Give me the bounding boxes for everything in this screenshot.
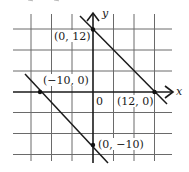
point-0-neg10 <box>91 143 95 147</box>
point-12-0 <box>152 90 156 94</box>
point-label-neg10-0: (−10, 0) <box>43 74 89 87</box>
coordinate-plane-figure: (0, 12) (12, 0) (−10, 0) (0, −10) 0 x y <box>0 0 189 172</box>
point-label-12-0: (12, 0) <box>117 95 154 108</box>
point-label-0-neg10: (0, −10) <box>98 138 144 151</box>
lower-line <box>25 74 108 163</box>
point-neg10-0 <box>38 90 42 94</box>
point-label-0-12: (0, 12) <box>54 30 91 43</box>
x-axis-label: x <box>176 85 183 98</box>
plotted-lines <box>25 16 167 163</box>
point-0-12 <box>91 27 95 31</box>
y-axis-label: y <box>101 7 109 20</box>
cropped-text-residue <box>28 0 59 1</box>
axes <box>13 13 173 163</box>
origin-label: 0 <box>96 95 103 108</box>
points <box>38 27 157 147</box>
